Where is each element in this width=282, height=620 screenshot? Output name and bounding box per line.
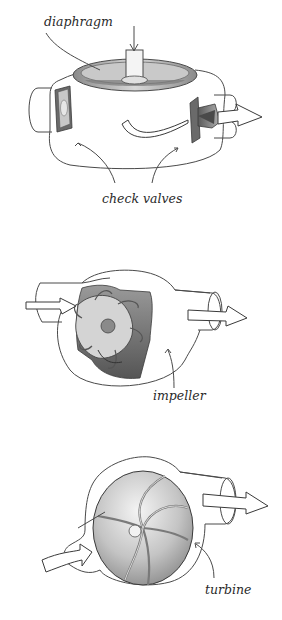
impeller-leader-line: [165, 349, 174, 388]
turbine-label: turbine: [205, 582, 252, 597]
inlet-port: [29, 88, 52, 132]
plunger-rod: [126, 50, 143, 78]
right-check-valve: [190, 97, 220, 143]
turbine-pump-panel: turbine: [0, 410, 282, 620]
impeller-hub: [101, 319, 115, 333]
impeller-label: impeller: [153, 388, 206, 403]
turbine: [93, 471, 193, 585]
diaphragm-pump-panel: diaphragm check valves: [0, 0, 282, 210]
down-arrow-icon: [130, 26, 138, 51]
flow-arrow-icon: [122, 120, 188, 137]
turbine-hub: [129, 525, 141, 537]
diaphragm-pump-illustration: [0, 0, 282, 210]
outlet-pipe: [175, 290, 221, 330]
diaphragm-label: diaphragm: [44, 14, 113, 29]
left-valve-leader-line: [75, 143, 115, 183]
left-check-valve: [55, 86, 72, 132]
impeller-pump-illustration: [0, 210, 282, 410]
outlet-arrow-icon: [188, 306, 247, 326]
outlet-arrow-icon: [218, 104, 262, 126]
inlet-arrow-icon: [26, 298, 76, 314]
check-valves-label: check valves: [102, 191, 182, 206]
inlet-arrow-icon: [42, 544, 92, 572]
turbine-leader-line: [195, 543, 214, 578]
impeller-pump-panel: impeller: [0, 210, 282, 410]
impeller: [75, 285, 153, 378]
